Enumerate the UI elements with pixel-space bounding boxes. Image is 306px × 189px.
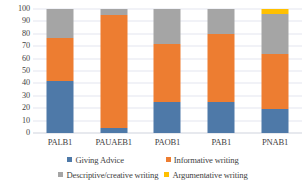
bars-layer bbox=[33, 0, 302, 146]
x-axis-label-paob1: PAOB1 bbox=[143, 137, 191, 151]
y-axis-tick-label: 10 bbox=[22, 117, 30, 125]
bar-group-palb1 bbox=[36, 0, 84, 146]
legend-label: Giving Advice bbox=[75, 155, 123, 165]
bar-segment[interactable] bbox=[262, 109, 289, 133]
y-axis-tick-label: 60 bbox=[22, 55, 30, 63]
x-axis-label-pab1: PAB1 bbox=[197, 137, 245, 151]
stacked-bar[interactable] bbox=[208, 9, 235, 133]
bar-group-pauaeb1 bbox=[89, 0, 137, 146]
chart-legend: Giving AdviceInformative writing Descrip… bbox=[0, 152, 306, 182]
x-axis-label-palb1: PALB1 bbox=[36, 137, 84, 151]
bar-segment[interactable] bbox=[100, 128, 127, 133]
legend-item[interactable]: Giving Advice bbox=[67, 155, 123, 165]
legend-swatch-icon bbox=[164, 172, 169, 177]
legend-swatch-icon bbox=[67, 157, 72, 162]
bar-segment[interactable] bbox=[262, 54, 289, 110]
stacked-bar[interactable] bbox=[262, 9, 289, 133]
bar-group-pab1 bbox=[197, 0, 245, 146]
bar-segment[interactable] bbox=[208, 102, 235, 133]
y-axis-tick-label: 50 bbox=[22, 67, 30, 75]
bar-segment[interactable] bbox=[154, 44, 181, 102]
y-axis-tick-label: 80 bbox=[22, 30, 30, 38]
x-axis-labels: PALB1PAUAEB1PAOB1PAB1PNAB1 bbox=[33, 137, 302, 151]
bar-segment[interactable] bbox=[208, 9, 235, 34]
x-axis-label-pauaeb1: PAUAEB1 bbox=[89, 137, 137, 151]
stacked-bar[interactable] bbox=[154, 9, 181, 133]
bar-segment[interactable] bbox=[262, 9, 289, 14]
legend-label: Argumentative writing bbox=[172, 170, 247, 180]
y-axis: 0102030405060708090100 bbox=[0, 0, 33, 146]
y-axis-tick-label: 70 bbox=[22, 42, 30, 50]
bar-segment[interactable] bbox=[154, 102, 181, 133]
y-axis-tick-label: 90 bbox=[22, 17, 30, 25]
legend-item[interactable]: Argumentative writing bbox=[164, 170, 247, 180]
bar-segment[interactable] bbox=[46, 9, 73, 38]
y-axis-tick-label: 20 bbox=[22, 104, 30, 112]
bar-group-pnab1 bbox=[251, 0, 299, 146]
bar-group-paob1 bbox=[143, 0, 191, 146]
y-axis-tick-label: 100 bbox=[18, 5, 30, 13]
legend-swatch-icon bbox=[58, 172, 63, 177]
stacked-bar[interactable] bbox=[100, 9, 127, 133]
y-axis-tick-label: 30 bbox=[22, 92, 30, 100]
legend-item[interactable]: Informative writing bbox=[166, 155, 239, 165]
stacked-bar-chart: 0102030405060708090100 PALB1PAUAEB1PAOB1… bbox=[0, 0, 306, 189]
bar-segment[interactable] bbox=[46, 81, 73, 133]
bar-segment[interactable] bbox=[154, 9, 181, 44]
y-axis-tick-label: 40 bbox=[22, 79, 30, 87]
legend-swatch-icon bbox=[166, 157, 171, 162]
legend-label: Descriptive/creative writing bbox=[66, 170, 158, 180]
y-axis-tick-label: 0 bbox=[26, 129, 30, 137]
legend-row-2: Descriptive/creative writingArgumentativ… bbox=[0, 167, 306, 182]
bar-segment[interactable] bbox=[100, 9, 127, 15]
stacked-bar[interactable] bbox=[46, 9, 73, 133]
bar-segment[interactable] bbox=[262, 14, 289, 54]
bar-segment[interactable] bbox=[100, 15, 127, 128]
x-axis-label-pnab1: PNAB1 bbox=[251, 137, 299, 151]
plot-area: 0102030405060708090100 bbox=[0, 0, 306, 146]
legend-row-1: Giving AdviceInformative writing bbox=[0, 152, 306, 167]
legend-label: Informative writing bbox=[174, 155, 239, 165]
bar-segment[interactable] bbox=[208, 34, 235, 102]
bar-segment[interactable] bbox=[46, 38, 73, 81]
legend-item[interactable]: Descriptive/creative writing bbox=[58, 170, 158, 180]
